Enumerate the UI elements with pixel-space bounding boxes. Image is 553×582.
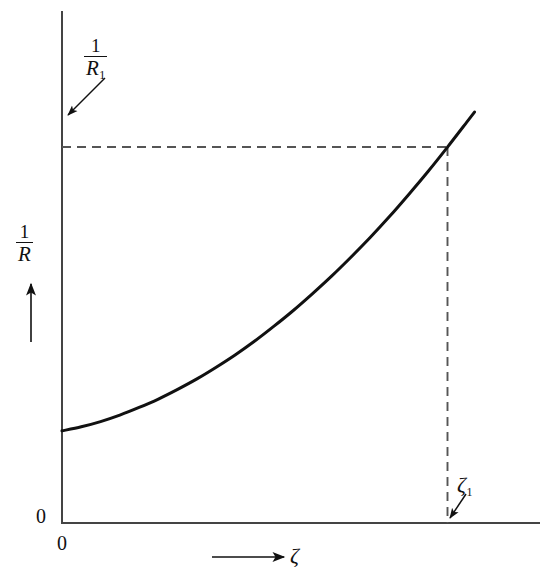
- fraction-1-over-R: 1 R: [16, 222, 33, 266]
- r1-annotation-arrow: [68, 78, 105, 115]
- data-curve-1-over-R: [62, 112, 474, 431]
- fraction-numerator: 1: [16, 222, 33, 241]
- axes-group: [61, 11, 540, 524]
- fraction-1-over-R1: 1 R1: [84, 36, 107, 81]
- guide-lines-group: [62, 147, 448, 523]
- denominator-subscript: 1: [99, 68, 106, 82]
- fraction-numerator: 1: [84, 36, 107, 55]
- zeta-symbol: ζ: [457, 472, 466, 497]
- x-axis-origin-label: 0: [57, 533, 67, 553]
- x-axis-label: ζ: [290, 545, 299, 567]
- zeta1-annotation-arrow: [450, 494, 466, 518]
- x-value-marker-label: ζ1: [457, 474, 472, 498]
- data-curve-group: [62, 112, 474, 431]
- figure-root: 1 R1 1 R ζ1 ζ 0 0: [0, 0, 553, 582]
- y-value-marker-label: 1 R1: [84, 36, 107, 81]
- fraction-denominator: R1: [84, 58, 107, 81]
- denominator-symbol: R: [86, 56, 99, 80]
- y-axis-origin-label: 0: [36, 506, 46, 526]
- zeta-subscript: 1: [466, 485, 473, 499]
- fraction-denominator: R: [16, 244, 33, 265]
- y-axis-label: 1 R: [16, 222, 33, 266]
